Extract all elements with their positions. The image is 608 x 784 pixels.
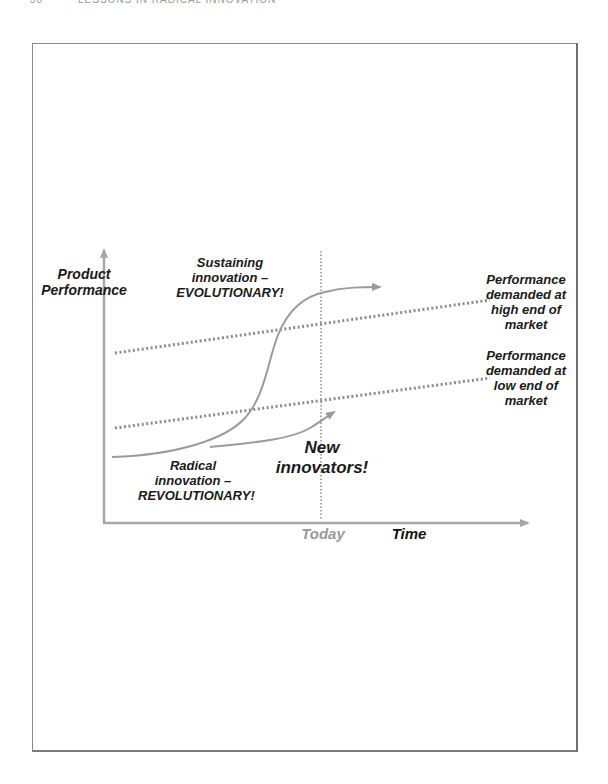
label-line: demanded at bbox=[472, 287, 580, 302]
low-end-market-label: Performance demanded at low end of marke… bbox=[472, 348, 580, 408]
label-line: EVOLUTIONARY! bbox=[175, 285, 285, 300]
today-label: Today bbox=[296, 525, 350, 543]
label-line: low end of bbox=[472, 378, 580, 393]
label-line: market bbox=[472, 317, 580, 332]
low-end-trend-line bbox=[115, 378, 490, 428]
sustaining-innovation-label: Sustaining innovation – EVOLUTIONARY! bbox=[175, 255, 285, 300]
label-line: REVOLUTIONARY! bbox=[138, 488, 248, 503]
label-line: Radical bbox=[138, 458, 248, 473]
y-axis-label: Product Performance bbox=[36, 266, 132, 298]
high-end-market-label: Performance demanded at high end of mark… bbox=[472, 272, 580, 332]
new-innovators-label: New innovators! bbox=[262, 438, 382, 478]
label-line: innovators! bbox=[262, 458, 382, 478]
label-line: innovation – bbox=[175, 270, 285, 285]
label-line: innovation – bbox=[138, 473, 248, 488]
label-line: Sustaining bbox=[175, 255, 285, 270]
y-axis-label-line: Product bbox=[36, 266, 132, 282]
label-line: Performance bbox=[472, 272, 580, 287]
s-curve-arrow bbox=[112, 287, 380, 457]
y-axis-label-line: Performance bbox=[36, 282, 132, 298]
label-line: market bbox=[472, 393, 580, 408]
label-line: high end of bbox=[472, 302, 580, 317]
radical-innovation-label: Radical innovation – REVOLUTIONARY! bbox=[138, 458, 248, 503]
high-end-trend-line bbox=[115, 300, 490, 353]
label-line: demanded at bbox=[472, 363, 580, 378]
x-axis-label: Time bbox=[384, 525, 434, 543]
label-line: Performance bbox=[472, 348, 580, 363]
label-line: New bbox=[262, 438, 382, 458]
